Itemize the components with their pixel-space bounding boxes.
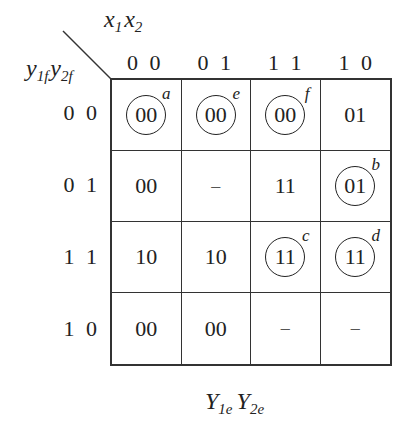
karnaugh-map-grid: 00a00e00f0100–1101b101011c11d0000–– <box>110 78 392 366</box>
map-cell: 11 <box>251 151 321 222</box>
state-tag: d <box>372 226 381 246</box>
stable-state-value: 00 <box>196 95 236 135</box>
map-cell: – <box>182 151 252 222</box>
cell-value: 10 <box>205 244 227 270</box>
map-cell: 00 <box>112 151 182 222</box>
cell-value: – <box>281 318 290 339</box>
state-tag: c <box>302 226 310 246</box>
map-cell: 01 <box>321 80 391 151</box>
row-header: 0 0 <box>64 100 101 126</box>
stable-state-value: 11 <box>265 237 305 277</box>
cell-value: 10 <box>135 244 157 270</box>
map-cell: 11c <box>251 222 321 293</box>
stable-state-value: 00 <box>265 95 305 135</box>
stable-state-value: 00 <box>126 95 166 135</box>
cell-value: 00 <box>205 316 227 342</box>
map-cell: 00 <box>112 293 182 364</box>
output-variables-label: Y1eY2e <box>205 388 264 418</box>
map-cell: 00e <box>182 80 252 151</box>
map-cell: 01b <box>321 151 391 222</box>
column-header: 1 1 <box>251 50 322 76</box>
row-header: 1 1 <box>64 244 101 270</box>
column-header: 0 1 <box>181 50 252 76</box>
stable-state-value: 01 <box>335 166 375 206</box>
row-header: 0 1 <box>64 172 101 198</box>
cell-value: – <box>211 176 220 197</box>
cell-value: 00 <box>135 316 157 342</box>
row-header: 1 0 <box>64 316 101 342</box>
map-cell: 11d <box>321 222 391 293</box>
map-cell: 10 <box>112 222 182 293</box>
state-tag: b <box>372 155 381 175</box>
map-cell: 00 <box>182 293 252 364</box>
state-tag: e <box>232 84 240 104</box>
map-cell: – <box>251 293 321 364</box>
map-cell: 10 <box>182 222 252 293</box>
column-header: 0 0 <box>110 50 181 76</box>
state-tag: a <box>162 84 171 104</box>
row-variables-label: y1fy2f <box>26 55 73 85</box>
cell-value: 00 <box>135 173 157 199</box>
cell-value: 01 <box>344 102 366 128</box>
cell-value: 11 <box>275 173 296 199</box>
map-cell: – <box>321 293 391 364</box>
cell-value: – <box>351 318 360 339</box>
map-cell: 00f <box>251 80 321 151</box>
stable-state-value: 11 <box>335 237 375 277</box>
column-variables-label: x1x2 <box>104 6 142 36</box>
column-header: 1 0 <box>322 50 393 76</box>
map-cell: 00a <box>112 80 182 151</box>
state-tag: f <box>305 84 310 104</box>
